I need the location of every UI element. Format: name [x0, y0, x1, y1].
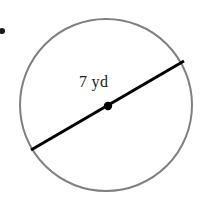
geometry-figure: [0, 0, 204, 207]
center-dot: [104, 102, 112, 110]
bullet-dot: [0, 28, 5, 34]
figure-canvas: 7 yd: [0, 0, 204, 207]
diameter-label: 7 yd: [79, 73, 108, 91]
